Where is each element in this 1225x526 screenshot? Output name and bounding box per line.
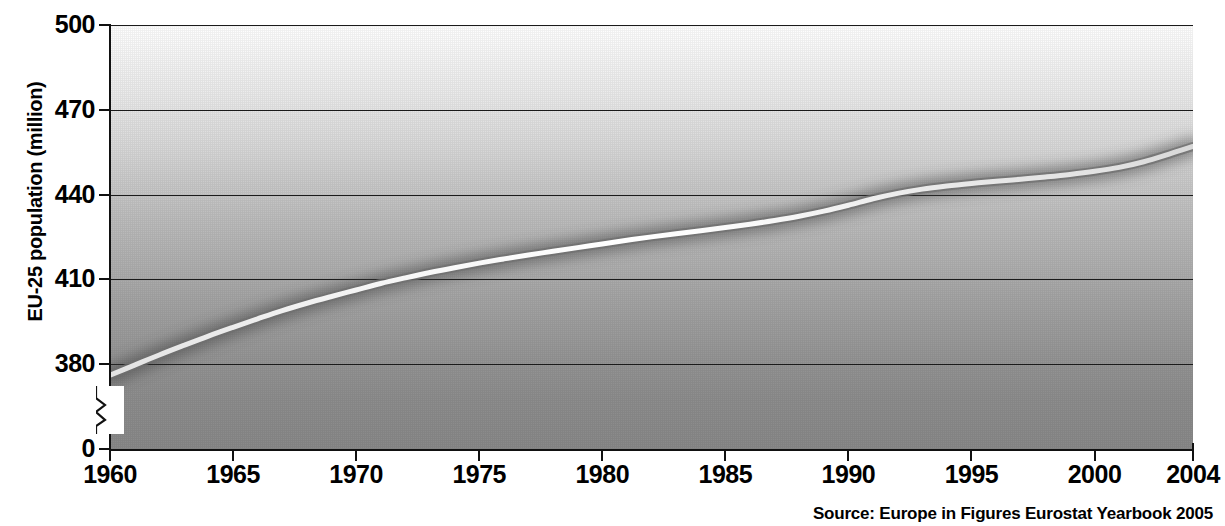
x-tick-label-1970: 1970 — [296, 462, 416, 487]
plot-area — [110, 25, 1193, 449]
y-tick-label-500: 500 — [3, 12, 95, 37]
y-tick-label-440: 440 — [3, 182, 95, 207]
y-tick-500 — [99, 24, 111, 26]
y-tick-410 — [99, 278, 111, 280]
y-tick-label-group: 5004704404103800 — [0, 0, 95, 470]
x-tick-label-1975: 1975 — [419, 462, 539, 487]
y-tick-label-0: 0 — [3, 436, 95, 461]
y-tick-380 — [99, 363, 111, 365]
y-tick-440 — [99, 194, 111, 196]
y-axis-break-marker — [96, 386, 124, 434]
x-tick-label-1990: 1990 — [788, 462, 908, 487]
x-tick-label-1995: 1995 — [911, 462, 1031, 487]
x-tick-label-2004: 2004 — [1133, 462, 1225, 487]
series-line-eu25-population — [110, 25, 1193, 449]
x-tick-label-1965: 1965 — [173, 462, 293, 487]
y-tick-label-410: 410 — [3, 266, 95, 291]
x-tick-label-1980: 1980 — [542, 462, 662, 487]
x-tick-label-1960: 1960 — [50, 462, 170, 487]
source-note: Source: Europe in Figures Eurostat Yearb… — [813, 504, 1213, 524]
x-axis-line — [109, 449, 1194, 451]
y-tick-label-470: 470 — [3, 97, 95, 122]
y-tick-470 — [99, 109, 111, 111]
x-tick-label-1985: 1985 — [665, 462, 785, 487]
y-tick-label-380: 380 — [3, 351, 95, 376]
